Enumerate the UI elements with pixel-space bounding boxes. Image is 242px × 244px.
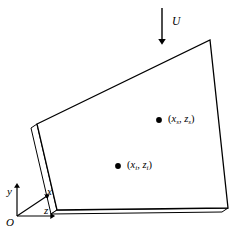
z-axis-label: z	[44, 205, 48, 216]
point-coordinate-label: (xs, zs)	[168, 114, 194, 125]
x-axis-line	[17, 196, 47, 216]
paren-close: )	[191, 113, 195, 124]
point-marker-dot	[156, 117, 162, 123]
paren-close: )	[148, 159, 152, 170]
flow-velocity-label: U	[172, 16, 180, 28]
plate-diagram-figure: U (xs, zs) (xi, zi) y x z O	[0, 0, 242, 244]
point-coordinate-label: (xi, zi)	[127, 160, 152, 171]
plate-front-face	[37, 40, 228, 210]
x-subscript: s	[176, 118, 179, 126]
z-subscript: s	[188, 118, 191, 126]
diagram-canvas	[0, 0, 242, 244]
x-axis-label: x	[47, 186, 52, 197]
y-axis-label: y	[7, 186, 12, 197]
point-marker-dot	[115, 163, 121, 169]
x-subscript: i	[135, 164, 137, 172]
origin-label: O	[6, 217, 14, 228]
